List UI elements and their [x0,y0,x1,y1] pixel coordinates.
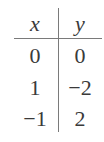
header-divider [14,38,102,39]
column-divider [58,8,59,132]
cell-y-row1: 0 [60,44,100,68]
header-x: x [15,12,55,36]
header-y: y [60,12,100,36]
cell-x-row1: 0 [15,44,55,68]
cell-y-row3: 2 [60,107,100,131]
cell-y-row2: −2 [60,76,100,100]
cell-x-row3: −1 [15,107,55,131]
cell-x-row2: 1 [15,76,55,100]
